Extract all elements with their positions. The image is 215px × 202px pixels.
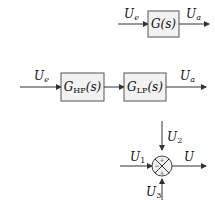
summing-junction-diagram: U2 U1 U3 + − + U [120,121,206,200]
bottom-input-label: U3 [146,185,161,200]
input-label: Ue [34,69,49,84]
input-label: Ue [124,7,139,22]
output-label: Ua [180,69,195,84]
single-block-diagram: Ue G(s) Ua [118,7,209,37]
block-diagrams: Ue G(s) Ua Ue GHP(s) GLP(s) Ua U2 U1 U3 … [0,0,215,202]
g-block-label: G(s) [151,17,176,31]
left-input-label: U1 [130,150,145,165]
sign-bottom: + [159,169,164,176]
top-input-label: U2 [167,130,182,145]
cascade-block-diagram: Ue GHP(s) GLP(s) Ua [20,69,206,101]
sign-left: − [154,162,159,169]
output-label: Ua [186,7,201,22]
output-label: U [184,150,195,164]
sign-top: + [159,156,164,163]
